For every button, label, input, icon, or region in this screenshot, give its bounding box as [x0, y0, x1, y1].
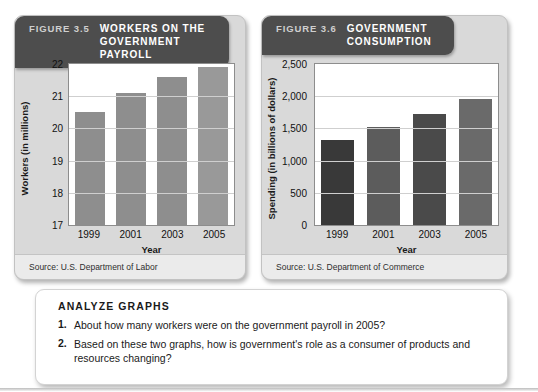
chart-area-3-5: Workers (in millions) 222120191817 19992…: [15, 63, 245, 258]
analyze-graphs-question-list: 1.About how many workers were on the gov…: [58, 318, 491, 365]
bar-2005: [198, 67, 228, 225]
gridline: [315, 96, 498, 97]
gridline: [69, 161, 234, 162]
chart-area-3-6: Spending (in billions of dollars) 2,5002…: [262, 63, 507, 258]
y-tick-label: 1,500: [282, 123, 307, 134]
x-tick-label: 2001: [363, 229, 403, 240]
plot-region-3-5: [68, 63, 235, 226]
analyze-question: 2.Based on these two graphs, how is gove…: [58, 337, 491, 365]
y-tick-label: 1,000: [282, 155, 307, 166]
bar-2001: [367, 127, 400, 225]
x-tick-label: 2001: [111, 229, 151, 240]
analyze-graphs-panel: ANALYZE GRAPHS 1.About how many workers …: [35, 289, 508, 385]
y-tick-label: 17: [52, 220, 63, 231]
gridline: [69, 96, 234, 97]
page-bottom-rule: [0, 388, 538, 391]
question-number: 2.: [58, 337, 74, 349]
x-tick-label: 2003: [410, 229, 450, 240]
gridline: [69, 128, 234, 129]
figure-title-line1: WORKERS ON THE: [100, 22, 217, 35]
bar-1999: [321, 140, 354, 225]
gridline: [69, 193, 234, 194]
figure-header-3-5: FIGURE 3.5 WORKERS ON THE GOVERNMENT PAY…: [15, 16, 229, 68]
figure-title-line2: GOVERNMENT PAYROLL: [100, 35, 217, 61]
x-tick-label: 1999: [317, 229, 357, 240]
y-tick-label: 2,000: [282, 91, 307, 102]
analyze-graphs-heading: ANALYZE GRAPHS: [58, 300, 491, 312]
x-tick-label: 1999: [69, 229, 109, 240]
bar-2003: [157, 77, 187, 225]
figure-title-label: GOVERNMENT CONSUMPTION: [347, 22, 432, 48]
figure-title-line2: CONSUMPTION: [347, 35, 432, 48]
bar-series-3-6: [315, 64, 498, 225]
y-tick-label: 22: [52, 59, 63, 70]
y-tick-label: 21: [52, 91, 63, 102]
figure-number-label: FIGURE 3.6: [276, 22, 337, 34]
x-axis-ticks-3-5: 1999200120032005: [68, 229, 235, 240]
question-text: About how many workers were on the gover…: [74, 318, 385, 332]
gridline: [315, 128, 498, 129]
y-tick-label: 20: [52, 123, 63, 134]
bar-2005: [459, 99, 492, 225]
bar-2001: [116, 93, 146, 225]
x-axis-ticks-3-6: 1999200120032005: [314, 229, 499, 240]
bar-series-3-5: [69, 64, 234, 225]
analyze-question: 1.About how many workers were on the gov…: [58, 318, 491, 332]
source-strip-3-6: Source: U.S. Department of Commerce: [262, 254, 507, 279]
x-tick-label: 2003: [152, 229, 192, 240]
gridline: [315, 161, 498, 162]
chart-body-3-6: Spending (in billions of dollars) 2,5002…: [262, 63, 507, 258]
y-tick-label: 2,500: [282, 59, 307, 70]
y-axis-label-3-5: Workers (in millions): [17, 63, 33, 233]
figure-number-label: FIGURE 3.5: [29, 22, 90, 34]
x-tick-label: 2005: [456, 229, 496, 240]
question-text: Based on these two graphs, how is govern…: [74, 337, 491, 365]
figure-header-3-6: FIGURE 3.6 GOVERNMENT CONSUMPTION: [262, 16, 454, 55]
y-tick-label: 18: [52, 187, 63, 198]
figure-title-line1: GOVERNMENT: [347, 22, 432, 35]
gridline: [315, 193, 498, 194]
y-tick-label: 0: [301, 220, 307, 231]
question-number: 1.: [58, 318, 74, 330]
source-strip-3-5: Source: U.S. Department of Labor: [15, 254, 245, 279]
y-tick-label: 19: [52, 155, 63, 166]
source-label: Source: U.S. Department of Labor: [15, 262, 158, 272]
chart-body-3-5: Workers (in millions) 222120191817 19992…: [15, 63, 245, 258]
y-tick-label: 500: [290, 187, 307, 198]
figure-title-label: WORKERS ON THE GOVERNMENT PAYROLL: [100, 22, 217, 61]
figure-panel-3-6: FIGURE 3.6 GOVERNMENT CONSUMPTION Spendi…: [261, 15, 508, 280]
plot-region-3-6: [314, 63, 499, 226]
y-axis-label-3-6: Spending (in billions of dollars): [264, 63, 280, 233]
figure-panel-3-5: FIGURE 3.5 WORKERS ON THE GOVERNMENT PAY…: [14, 15, 246, 280]
bar-2003: [413, 114, 446, 225]
source-label: Source: U.S. Department of Commerce: [262, 262, 424, 272]
x-tick-label: 2005: [194, 229, 234, 240]
